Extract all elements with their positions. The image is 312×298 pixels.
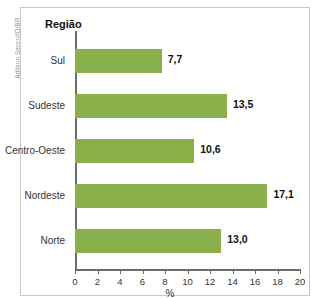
category-label-norte: Norte [41,235,65,246]
x-axis-label-text: % [166,288,175,298]
x-axis-label: % [21,288,309,298]
bar-sudeste [75,94,227,118]
x-tick-label: 20 [290,276,310,287]
bar-value-label: 13,0 [227,233,247,245]
bar-row: 17,1Nordeste [75,184,300,208]
bar-row: 7,7Sul [75,49,300,73]
bar-value-label: 10,6 [200,143,220,155]
x-tick [75,269,76,274]
cut-off-title [0,0,312,7]
x-tick [278,269,279,274]
bar-row: 13,0Norte [75,229,300,253]
bar-row: 10,6Centro-Oeste [75,139,300,163]
x-tick [188,269,189,274]
x-tick [210,269,211,274]
x-tick-label: 10 [178,276,198,287]
category-label-centro-oeste: Centro-Oeste [5,145,65,156]
x-tick-label: 2 [88,276,108,287]
x-tick [255,269,256,274]
x-tick-label: 12 [200,276,220,287]
bar-value-label: 7,7 [168,53,183,65]
x-tick-label: 16 [245,276,265,287]
bar-value-label: 17,1 [273,188,293,200]
category-label-wrap: Sudeste [21,94,71,118]
category-label-sul: Sul [51,55,65,66]
x-tick-label: 8 [155,276,175,287]
x-tick-label: 4 [110,276,130,287]
bar-chart-plot: Região 7,7Sul13,5Sudeste10,6Centro-Oeste… [21,8,309,295]
category-label-wrap: Sul [21,49,71,73]
bar-sul [75,49,162,73]
bar-row: 13,5Sudeste [75,94,300,118]
x-tick [98,269,99,274]
bar-centro-oeste [75,139,194,163]
category-label-wrap: Nordeste [21,184,71,208]
bar-value-label: 13,5 [233,98,253,110]
bar-nordeste [75,184,267,208]
x-tick-label: 6 [133,276,153,287]
x-tick-label: 18 [268,276,288,287]
x-tick [233,269,234,274]
bars-group: 7,7Sul13,5Sudeste10,6Centro-Oeste17,1Nor… [21,8,309,295]
category-label-nordeste: Nordeste [24,190,65,201]
category-label-sudeste: Sudeste [28,100,65,111]
x-tick [120,269,121,274]
bar-norte [75,229,221,253]
category-label-wrap: Centro-Oeste [21,139,71,163]
x-tick-label: 14 [223,276,243,287]
x-tick [300,269,301,274]
x-tick [165,269,166,274]
category-label-wrap: Norte [21,229,71,253]
chart-frame: Região 7,7Sul13,5Sudeste10,6Centro-Oeste… [20,7,310,296]
x-tick-label: 0 [65,276,85,287]
x-tick [143,269,144,274]
